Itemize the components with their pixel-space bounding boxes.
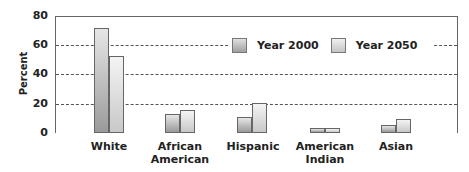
legend: Year 2000 Year 2050 (228, 35, 433, 55)
bar-white-2050 (109, 56, 124, 133)
x-label-hispanic: Hispanic (218, 140, 288, 153)
bar-hispanic-2000 (237, 117, 252, 133)
x-label-white: White (74, 140, 144, 153)
legend-item-2000: Year 2000 (232, 38, 319, 53)
x-label-american-indian: American Indian (290, 140, 360, 166)
bar-white-2000 (94, 28, 109, 133)
bar-american-indian-2050 (325, 128, 340, 133)
y-tick-40: 40 (20, 68, 48, 80)
bar-asian-2000 (381, 125, 396, 133)
bar-hispanic-2050 (252, 103, 267, 133)
x-label-african-american: African American (145, 140, 215, 166)
legend-swatch-2000 (232, 38, 247, 53)
bar-asian-2050 (396, 119, 411, 133)
legend-item-2050: Year 2050 (331, 38, 418, 53)
y-tick-0: 0 (20, 127, 48, 139)
bar-american-indian-2000 (310, 128, 325, 133)
y-tick-60: 60 (20, 39, 48, 51)
legend-swatch-2050 (331, 38, 346, 53)
x-label-asian: Asian (361, 140, 431, 153)
y-tick-20: 20 (20, 98, 48, 110)
y-tick-80: 80 (20, 10, 48, 22)
bar-african-american-2000 (165, 114, 180, 133)
bar-african-american-2050 (180, 110, 195, 133)
